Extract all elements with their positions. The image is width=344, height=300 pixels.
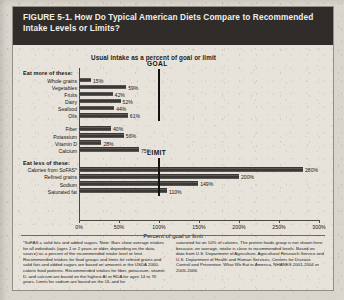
bar-value-label: 200% <box>241 174 254 180</box>
axis-tick <box>159 220 160 223</box>
bar-label: Potassium <box>53 134 77 140</box>
axis-tick <box>119 220 120 223</box>
bar-label: Vegetables <box>52 85 77 91</box>
bar <box>79 126 111 131</box>
bar-label: Calories from SoFAS* <box>27 167 77 173</box>
bar <box>79 133 124 138</box>
axis-tick <box>239 220 240 223</box>
axis-tick <box>279 220 280 223</box>
figure-title: FIGURE 5-1. How Do Typical American Diet… <box>23 12 323 33</box>
axis-tick-label: 150% <box>192 224 205 230</box>
bar-label: Vitamin D <box>55 141 77 147</box>
bar-value-label: 59% <box>128 85 138 91</box>
bar-value-label: 52% <box>123 99 133 105</box>
bar <box>79 167 303 172</box>
bar <box>79 140 101 145</box>
reference-label-limit: LIMIT <box>147 149 166 156</box>
bar-label: Calcium <box>59 148 77 154</box>
bar-label: Fiber <box>65 126 77 132</box>
x-axis-title: Percent of goal or limit <box>13 233 333 239</box>
figure-title-bar: FIGURE 5-1. How Do Typical American Diet… <box>13 7 333 45</box>
footnote-divider <box>21 235 325 236</box>
bar-value-label: 40% <box>113 126 123 132</box>
bar-label: Dairy <box>65 99 77 105</box>
bar <box>79 78 91 83</box>
group-header-eat-less: Eat less of these: <box>23 160 70 166</box>
reference-line-goal <box>158 69 160 122</box>
bar-label: Seafood <box>58 106 77 112</box>
reference-label-goal: GOAL <box>147 60 168 67</box>
axis-tick <box>199 220 200 223</box>
bar <box>79 85 126 90</box>
axis-tick-label: 250% <box>272 224 285 230</box>
bar-value-label: 149% <box>200 181 213 187</box>
bar <box>79 106 114 111</box>
bar <box>79 113 128 118</box>
bar-value-label: 44% <box>116 106 126 112</box>
bar <box>79 181 198 186</box>
bar-value-label: 56% <box>126 133 136 139</box>
bar-value-label: 110% <box>169 189 182 195</box>
group-header-eat-more: Eat more of these: <box>23 70 73 76</box>
axis-tick-label: 300% <box>312 224 325 230</box>
bar-label: Refined grains <box>44 174 77 180</box>
bar <box>79 92 113 97</box>
axis-tick <box>79 220 80 223</box>
axis-tick-label: 200% <box>232 224 245 230</box>
footnote-right: saturated fat on 10% of calories. The pr… <box>176 240 324 274</box>
bar-label: Sodium <box>60 182 77 188</box>
bar-value-label: 28% <box>103 141 113 147</box>
axis-tick-label: 0% <box>75 224 83 230</box>
bar-label: Whole grains <box>47 78 77 84</box>
bar <box>79 99 121 104</box>
bar-label: Oils <box>68 113 77 119</box>
bar-value-label: 42% <box>115 92 125 98</box>
footnote-left: *SoFAS = solid fats and added sugars. No… <box>23 240 168 285</box>
figure-card: FIGURE 5-1. How Do Typical American Diet… <box>13 7 333 290</box>
axis-tick-label: 100% <box>152 224 165 230</box>
bar-value-label: 61% <box>130 113 140 119</box>
reference-line-limit <box>158 158 160 196</box>
bar-label: Saturated fat <box>48 189 77 195</box>
bar <box>79 188 167 193</box>
bar <box>79 147 139 152</box>
bar-value-label: 15% <box>93 78 103 84</box>
axis-tick-label: 50% <box>114 224 124 230</box>
bar-label: Fruits <box>64 92 77 98</box>
bar-value-label: 280% <box>305 167 318 173</box>
axis-tick <box>319 220 320 223</box>
